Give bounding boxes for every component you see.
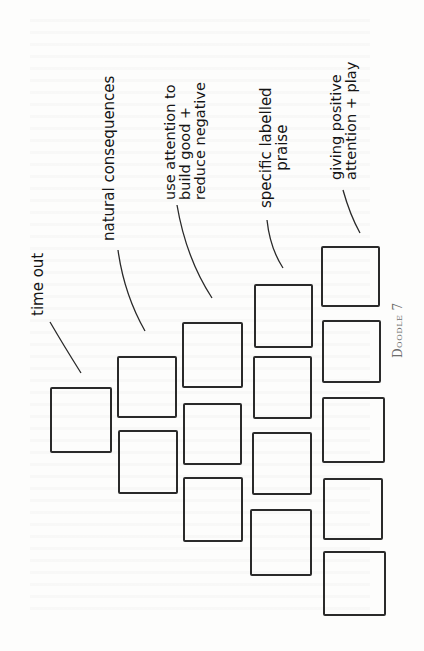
box-col1-row1 [50, 387, 112, 453]
box-col4-row3 [252, 432, 312, 495]
doodle-page: time out natural consequences use attent… [0, 0, 424, 651]
box-col5-row3 [322, 397, 385, 463]
label-use-attention: use attention to build good + reduce neg… [163, 82, 209, 200]
leader-line-specific-praise [267, 220, 283, 268]
label-time-out: time out [31, 253, 47, 316]
box-col2-row2 [118, 430, 178, 494]
leader-line-natural-consequences [118, 250, 145, 331]
label-giving-positive: giving positive attention + play [329, 62, 359, 180]
box-col2-row1 [117, 356, 177, 418]
leader-line-time-out [50, 322, 81, 373]
box-col5-row4 [323, 478, 383, 540]
box-col5-row2 [322, 320, 381, 383]
box-col4-row1 [254, 284, 313, 348]
box-col5-row1 [321, 246, 380, 307]
box-col3-row1 [182, 322, 243, 388]
label-specific-praise: specific labelled praise [259, 87, 291, 208]
label-natural-consequences: natural consequences [102, 76, 118, 241]
box-col5-row5 [323, 551, 386, 616]
leader-line-giving-positive [343, 190, 360, 233]
box-col4-row2 [253, 356, 312, 419]
box-col3-row2 [183, 403, 242, 465]
box-col4-row4 [250, 509, 312, 576]
leader-line-use-attention [177, 205, 212, 298]
box-col3-row3 [183, 477, 243, 542]
doodle-caption: Doodle 7 [391, 302, 405, 358]
